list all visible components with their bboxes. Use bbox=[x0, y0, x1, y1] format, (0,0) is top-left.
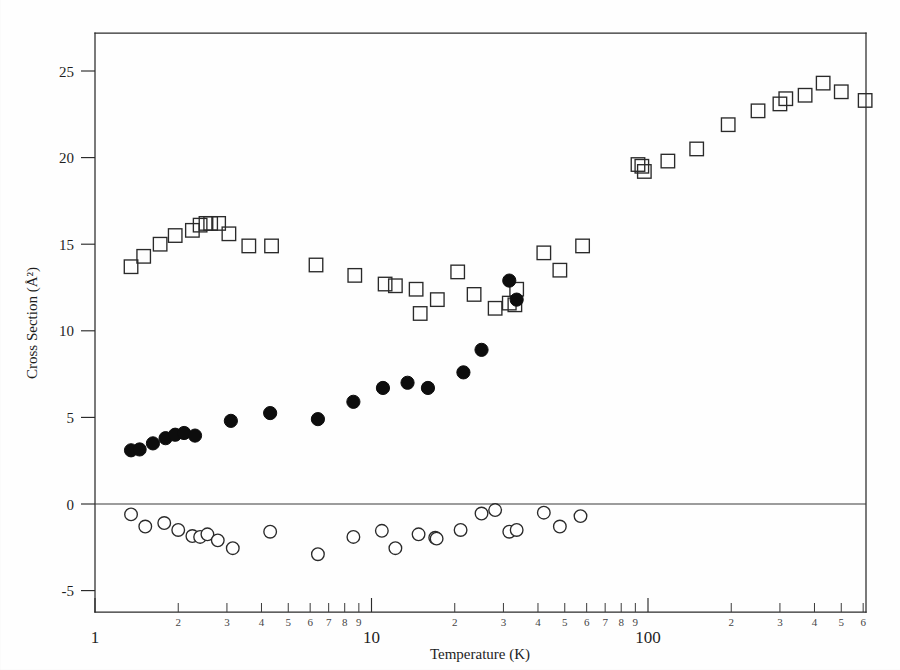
data-point-open-circle bbox=[312, 548, 325, 561]
data-point-square bbox=[816, 76, 830, 90]
data-point-square bbox=[124, 260, 138, 274]
x-tick-minor-label-5: 5 bbox=[286, 616, 292, 628]
x-tick-minor-label-9: 9 bbox=[356, 616, 362, 628]
x-tick-major-label-10: 10 bbox=[363, 628, 380, 647]
data-point-square bbox=[661, 154, 675, 168]
x-axis-title: Temperature (K) bbox=[430, 646, 530, 663]
x-tick-minor-label-6: 6 bbox=[307, 616, 313, 628]
data-point-square bbox=[751, 104, 765, 118]
data-point-open-circle bbox=[554, 520, 567, 533]
data-point-open-circle bbox=[139, 520, 152, 533]
data-point-square bbox=[798, 88, 812, 102]
data-point-filled-circle bbox=[188, 429, 201, 442]
series-open-circles-residuals bbox=[125, 504, 587, 561]
data-point-open-circle bbox=[389, 542, 402, 555]
data-point-filled-circle bbox=[311, 413, 324, 426]
x-tick-minor-label-50: 5 bbox=[562, 616, 568, 628]
y-axis-ticks: 25 20 15 10 5 0 -5 bbox=[59, 64, 95, 600]
data-point-square bbox=[858, 94, 872, 108]
series-filled-circles bbox=[124, 274, 523, 457]
x-tick-minor-label-4: 4 bbox=[259, 616, 265, 628]
data-point-square bbox=[309, 258, 323, 272]
data-point-open-circle bbox=[574, 510, 587, 523]
data-point-open-circle bbox=[510, 524, 523, 537]
y-tick-label-10: 10 bbox=[59, 323, 74, 339]
data-point-square bbox=[186, 224, 200, 238]
data-point-filled-circle bbox=[503, 274, 516, 287]
data-point-square bbox=[431, 293, 445, 307]
x-tick-minor-label-300: 3 bbox=[777, 616, 783, 628]
y-axis-title: Cross Section (Å²) bbox=[24, 267, 41, 379]
data-point-square bbox=[265, 239, 279, 253]
x-tick-minor-label-400: 4 bbox=[812, 616, 818, 628]
y-tick-label-0: 0 bbox=[67, 497, 75, 513]
data-point-filled-circle bbox=[510, 293, 523, 306]
data-point-filled-circle bbox=[264, 406, 277, 419]
data-point-open-circle bbox=[475, 507, 488, 520]
data-point-square bbox=[721, 118, 735, 132]
x-tick-minor-label-200: 2 bbox=[728, 616, 734, 628]
data-point-filled-circle bbox=[224, 414, 237, 427]
data-point-square bbox=[409, 282, 423, 296]
y-tick-label-minus5: -5 bbox=[62, 583, 75, 599]
x-tick-minor-label-8: 8 bbox=[342, 616, 348, 628]
data-point-open-circle bbox=[454, 524, 467, 537]
data-point-square bbox=[242, 239, 256, 253]
x-tick-minor-label-2: 2 bbox=[175, 616, 181, 628]
x-tick-minor-label-3: 3 bbox=[224, 616, 230, 628]
x-tick-minor-label-40: 4 bbox=[535, 616, 541, 628]
data-point-square bbox=[488, 302, 502, 316]
y-tick-label-20: 20 bbox=[59, 150, 74, 166]
data-point-square bbox=[212, 217, 226, 231]
data-point-filled-circle bbox=[457, 366, 470, 379]
x-tick-minor-label-90: 9 bbox=[633, 616, 639, 628]
x-tick-minor-label-80: 8 bbox=[618, 616, 624, 628]
data-point-square bbox=[451, 265, 465, 279]
x-axis-ticks: 234567892345678923456110100 bbox=[91, 598, 867, 647]
plot-frame bbox=[95, 33, 866, 612]
data-point-square bbox=[835, 85, 849, 99]
data-point-open-circle bbox=[538, 506, 551, 519]
series-open-squares bbox=[124, 76, 872, 320]
data-point-square bbox=[537, 246, 551, 259]
x-tick-major-label-1: 1 bbox=[91, 628, 100, 647]
data-point-open-circle bbox=[158, 517, 171, 530]
y-tick-label-25: 25 bbox=[59, 64, 74, 80]
x-tick-minor-label-500: 5 bbox=[839, 616, 845, 628]
data-point-square bbox=[779, 92, 793, 106]
data-point-square bbox=[576, 239, 590, 253]
data-point-open-circle bbox=[211, 534, 224, 547]
data-point-square bbox=[168, 229, 182, 243]
x-tick-major-label-100: 100 bbox=[635, 628, 661, 647]
figure-page: 25 20 15 10 5 0 -5 Cross Section (Å²) 23… bbox=[0, 0, 900, 670]
data-point-open-circle bbox=[172, 524, 185, 537]
data-point-square bbox=[153, 237, 167, 251]
x-tick-minor-label-70: 7 bbox=[602, 616, 608, 628]
data-point-filled-circle bbox=[146, 437, 159, 450]
x-tick-minor-label-30: 3 bbox=[501, 616, 507, 628]
data-point-square bbox=[553, 263, 567, 277]
data-point-square bbox=[413, 307, 427, 321]
y-tick-label-15: 15 bbox=[59, 237, 74, 253]
data-point-square bbox=[137, 250, 151, 264]
data-point-open-circle bbox=[125, 508, 138, 521]
data-point-open-circle bbox=[264, 525, 277, 538]
x-tick-minor-label-20: 2 bbox=[452, 616, 458, 628]
data-point-open-circle bbox=[347, 531, 360, 544]
data-point-filled-circle bbox=[347, 395, 360, 408]
data-point-square bbox=[467, 288, 481, 302]
data-point-filled-circle bbox=[401, 376, 414, 389]
scatter-plot: 25 20 15 10 5 0 -5 Cross Section (Å²) 23… bbox=[0, 0, 900, 670]
y-tick-label-5: 5 bbox=[67, 410, 75, 426]
x-tick-minor-label-600: 6 bbox=[860, 616, 866, 628]
data-point-filled-circle bbox=[421, 381, 434, 394]
data-point-open-circle bbox=[376, 525, 389, 538]
x-tick-minor-label-7: 7 bbox=[326, 616, 332, 628]
data-point-filled-circle bbox=[133, 443, 146, 456]
data-point-open-circle bbox=[412, 528, 425, 541]
data-point-open-circle bbox=[226, 542, 239, 555]
data-point-open-circle bbox=[489, 504, 502, 517]
data-point-square bbox=[690, 142, 704, 156]
data-point-filled-circle bbox=[376, 381, 389, 394]
data-point-square bbox=[348, 269, 362, 283]
